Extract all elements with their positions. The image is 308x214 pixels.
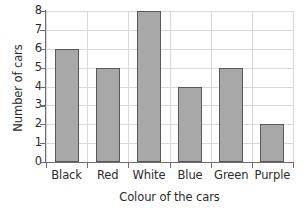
x-tick-mark [211,163,212,168]
y-tick-mark [40,68,45,69]
x-tick-mark [252,163,253,168]
y-tick-mark [40,162,45,163]
x-tick-mark [46,163,47,168]
x-tick-mark [293,163,294,168]
bar-white [137,11,161,162]
x-tick-label-purple: Purple [255,168,291,182]
gridline-vertical [293,11,294,162]
bar-red [96,68,120,162]
y-tick-mark [40,49,45,50]
x-tick-label-white: White [132,168,165,182]
gridline-vertical [170,11,171,162]
gridline-vertical [87,11,88,162]
x-tick-mark [170,163,171,168]
y-tick-mark [40,124,45,125]
y-axis-line [45,10,46,163]
plot-area [46,11,293,162]
x-tick-mark [128,163,129,168]
x-tick-label-red: Red [97,168,119,182]
bar-green [219,68,243,162]
y-tick-mark [40,143,45,144]
x-tick-label-green: Green [214,168,248,182]
y-tick-mark [40,11,45,12]
y-tick-mark [40,30,45,31]
x-axis-tick-labels: BlackRedWhiteBlueGreenPurple [46,168,293,186]
gridline-vertical [128,11,129,162]
bar-purple [260,124,284,162]
y-tick-mark [40,87,45,88]
y-tick-mark [40,105,45,106]
bar-blue [178,87,202,163]
gridline-vertical [252,11,253,162]
bar-black [55,49,79,162]
gridline-vertical [211,11,212,162]
bar-chart-figure: Number of cars 012345678 BlackRedWhiteBl… [0,0,308,214]
x-tick-label-blue: Blue [178,168,203,182]
x-axis-title: Colour of the cars [46,190,293,204]
x-tick-mark [87,163,88,168]
x-tick-label-black: Black [51,168,82,182]
